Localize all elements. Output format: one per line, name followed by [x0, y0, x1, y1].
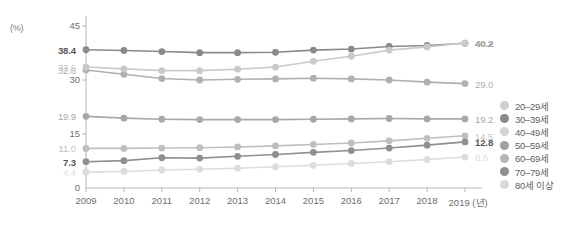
data-point: [83, 46, 90, 53]
x-axis-tick-label: 2016: [341, 195, 362, 206]
series-start-value-label: 7.3: [63, 156, 76, 167]
data-point: [424, 43, 431, 50]
legend-item-label: 40–49세: [515, 125, 549, 139]
series-start-value-label: 4.4: [63, 167, 76, 178]
data-point: [272, 142, 279, 149]
series-end-value-label: 19.2: [475, 113, 493, 124]
y-axis-tick-label: 45: [56, 20, 80, 31]
data-point: [83, 158, 90, 165]
data-point: [386, 158, 393, 165]
series-end-value-label: 40.3: [475, 37, 493, 48]
series-5: [83, 132, 469, 151]
x-axis-tick-label: 2009: [75, 195, 96, 206]
legend-item[interactable]: 20–29세: [500, 99, 576, 112]
y-axis-tick-label: 0: [56, 182, 80, 193]
data-point: [386, 137, 393, 144]
legend-swatch-circle-icon: [500, 114, 509, 123]
legend-swatch-circle-icon: [500, 127, 509, 136]
legend-item-label: 30–39세: [515, 112, 549, 126]
data-point: [386, 47, 393, 54]
legend-swatch-circle-icon: [500, 167, 509, 176]
data-point: [310, 47, 317, 54]
series-end-value-label: 8.6: [475, 152, 488, 163]
data-point: [310, 75, 317, 82]
x-axis-tick-label: 2011: [152, 195, 172, 206]
legend-item[interactable]: 80세 이상: [500, 178, 576, 191]
data-point: [196, 67, 203, 74]
data-point: [310, 141, 317, 148]
data-point: [196, 49, 203, 56]
data-point: [348, 115, 355, 122]
data-point: [310, 162, 317, 169]
data-point: [83, 64, 90, 71]
series-start-value-label: 19.9: [58, 111, 76, 122]
data-point: [158, 145, 165, 152]
data-point: [158, 75, 165, 82]
data-point: [462, 139, 469, 146]
data-point: [121, 168, 128, 175]
data-point: [424, 79, 431, 86]
data-point: [234, 66, 241, 73]
data-point: [310, 58, 317, 65]
data-point: [234, 49, 241, 56]
x-axis-tick-label: 2018: [417, 195, 438, 206]
x-axis-tick-label: 2019 (년): [449, 195, 488, 209]
data-point: [196, 144, 203, 151]
legend-item-label: 60–69세: [515, 151, 549, 165]
data-point: [272, 116, 279, 123]
data-point: [234, 76, 241, 83]
data-point: [234, 144, 241, 151]
series-start-value-label: 38.4: [58, 44, 76, 55]
legend-item-label: 80세 이상: [515, 178, 553, 192]
data-point: [272, 151, 279, 158]
data-point: [121, 65, 128, 72]
data-point: [158, 48, 165, 55]
data-point: [424, 156, 431, 163]
legend-swatch-circle-icon: [500, 141, 509, 150]
data-point: [83, 145, 90, 152]
series-start-value-label: 11.0: [59, 143, 76, 154]
data-point: [196, 155, 203, 162]
data-point: [83, 113, 90, 120]
series-4: [83, 113, 469, 123]
data-point: [424, 115, 431, 122]
data-point: [234, 153, 241, 160]
x-axis-tick-label: 2012: [189, 195, 210, 206]
data-point: [348, 53, 355, 60]
x-axis-tick-label: 2015: [303, 195, 324, 206]
data-point: [386, 145, 393, 152]
data-point: [272, 64, 279, 71]
legend-item[interactable]: 30–39세: [500, 112, 576, 125]
x-axis-tick-label: 2010: [113, 195, 134, 206]
legend-item-label: 20–29세: [515, 99, 549, 113]
legend-item[interactable]: 50–59세: [500, 139, 576, 152]
data-point: [158, 167, 165, 174]
legend-item[interactable]: 40–49세: [500, 125, 576, 138]
legend-swatch-circle-icon: [500, 101, 509, 110]
data-point: [234, 116, 241, 123]
data-point: [424, 135, 431, 142]
data-point: [348, 147, 355, 154]
data-point: [386, 115, 393, 122]
legend-item[interactable]: 60–69세: [500, 152, 576, 165]
data-point: [348, 160, 355, 167]
data-point: [462, 154, 469, 161]
y-axis-tick-label: 15: [56, 128, 80, 139]
data-point: [196, 116, 203, 123]
data-point: [310, 116, 317, 123]
data-point: [462, 115, 469, 122]
legend-item[interactable]: 70–79세: [500, 165, 576, 178]
x-axis-tick-label: 2014: [265, 195, 286, 206]
data-point: [158, 67, 165, 74]
data-point: [158, 154, 165, 161]
legend-item-label: 70–79세: [515, 165, 549, 179]
data-point: [196, 166, 203, 173]
data-point: [386, 77, 393, 84]
data-point: [83, 169, 90, 176]
data-point: [196, 77, 203, 84]
data-point: [348, 46, 355, 53]
series-start-value-label: 33.6: [58, 62, 76, 73]
data-point: [121, 145, 128, 152]
data-point: [234, 165, 241, 172]
y-axis-tick-label: 30: [56, 74, 80, 85]
